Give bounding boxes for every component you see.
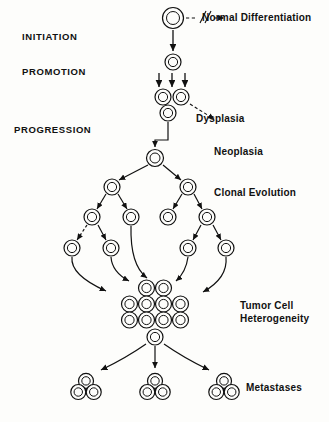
- metastasis-right-left: [209, 385, 224, 400]
- metastasis-left-right: [86, 385, 101, 400]
- promoted-cell-c: [160, 105, 176, 121]
- tumor-cell-r0-c1: [156, 280, 172, 296]
- tumor-cell-r2-c1: [139, 312, 155, 328]
- tumor-cell-r2-c3: [173, 312, 189, 328]
- clone-right: [180, 179, 196, 195]
- tumor-cell-r1-c3: [173, 296, 189, 312]
- tumor-progression-diagram: INITIATIONPROMOTIONPROGRESSIONNormal Dif…: [0, 0, 329, 422]
- stem-cell: [163, 8, 184, 29]
- clone-r1: [160, 209, 176, 225]
- neoplastic-cell: [147, 150, 164, 167]
- stage-label-0: INITIATION: [22, 31, 77, 42]
- tumor-cell-r1-c1: [139, 296, 155, 312]
- tumor-cell-r2-c0: [122, 312, 138, 328]
- metastasis-right-right: [224, 385, 239, 400]
- clonal-split-arrows: [119, 165, 181, 180]
- clone-left: [104, 179, 120, 195]
- tumor-cell-r3-c0: [147, 329, 163, 345]
- clone-l1b: [103, 240, 119, 256]
- initiated-cell: [165, 54, 181, 70]
- outcome-label-1: Dysplasia: [196, 113, 245, 124]
- metastasis-left: [71, 373, 101, 399]
- promotion-arrows: [159, 73, 185, 87]
- clone-l2: [123, 209, 139, 225]
- clone-r2b: [218, 240, 234, 256]
- tumor-cell-r1-c2: [156, 296, 172, 312]
- promoted-cell-a: [155, 89, 171, 105]
- stage-label-1: PROMOTION: [22, 66, 86, 77]
- cell-layer: [64, 8, 239, 400]
- metastasis-right: [209, 373, 239, 399]
- clone-r2: [199, 209, 215, 225]
- tumor-cell-r1-c0: [122, 296, 138, 312]
- metastasis-center: [140, 373, 170, 399]
- outcome-label-5: Heterogeneity: [240, 313, 310, 324]
- clone-r2a: [180, 240, 196, 256]
- outcome-label-0: Normal Differentiation: [202, 12, 311, 23]
- metastasis-arrows: [101, 344, 209, 370]
- metastasis-center-right: [155, 385, 170, 400]
- outcome-label-3: Clonal Evolution: [214, 187, 296, 198]
- stage-label-2: PROGRESSION: [14, 124, 91, 135]
- tumor-cell-r2-c2: [156, 312, 172, 328]
- metastasis-left-left: [71, 385, 86, 400]
- tumor-cell-heterogeneity-mass: [122, 280, 189, 345]
- tumor-cell-r0-c0: [139, 280, 155, 296]
- progression-arrow: [155, 122, 168, 147]
- outcome-label-4: Tumor Cell: [240, 300, 294, 311]
- metastasis-center-left: [140, 385, 155, 400]
- outcome-label-2: Neoplasia: [214, 146, 263, 157]
- outcome-label-6: Metastases: [246, 382, 302, 393]
- promoted-cell-b: [173, 89, 189, 105]
- clone-l1: [84, 209, 100, 225]
- clone-l1a: [64, 240, 80, 256]
